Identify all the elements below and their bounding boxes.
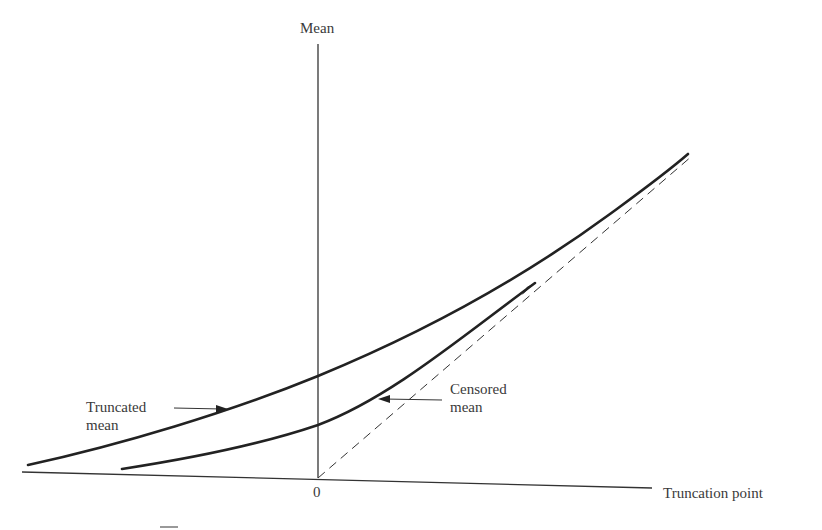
censored-arrowhead (378, 395, 390, 403)
censored-mean-label-line2: mean (450, 399, 482, 416)
x-axis-label: Truncation point (663, 485, 763, 502)
y-axis-label: Mean (300, 20, 334, 37)
forty-five-degree-line (318, 156, 692, 478)
censored-arrow-line (384, 399, 442, 400)
censored-end-arrowhead (522, 283, 535, 295)
origin-tick-label: 0 (313, 484, 321, 501)
truncated-mean-label-line2: mean (86, 417, 118, 434)
x-axis (22, 472, 652, 488)
truncated-arrow-line (174, 408, 222, 409)
truncated-mean-curve (28, 154, 688, 465)
chart-canvas (0, 0, 822, 530)
truncated-mean-label-line1: Truncated (86, 399, 146, 416)
censored-mean-label-line1: Censored (450, 381, 507, 398)
censored-mean-curve (122, 283, 535, 469)
